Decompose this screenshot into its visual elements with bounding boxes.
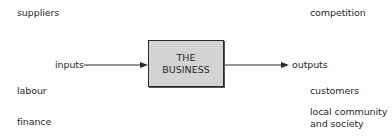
business-box: THE BUSINESS (148, 40, 224, 87)
stakeholder-society: and society (310, 118, 364, 130)
stakeholder-finance: finance (17, 116, 51, 128)
stakeholder-local-community: local community (310, 106, 387, 118)
stakeholder-suppliers: suppliers (17, 7, 59, 19)
business-title-line2: BUSINESS (162, 64, 209, 76)
stakeholder-customers: customers (310, 85, 359, 97)
arrow-head-icon (140, 62, 148, 68)
arrow-head-icon (281, 62, 289, 68)
stakeholder-competition: competition (310, 7, 366, 19)
inputs-label: inputs (55, 59, 84, 71)
stakeholder-labour: labour (17, 85, 47, 97)
outputs-label: outputs (292, 59, 328, 71)
business-title-line1: THE (177, 52, 196, 64)
